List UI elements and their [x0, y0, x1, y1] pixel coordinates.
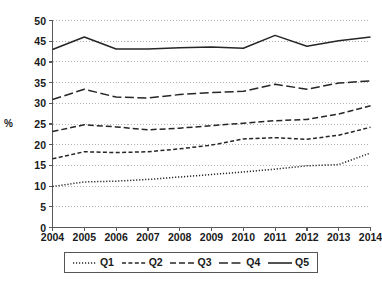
legend-label: Q1 [100, 257, 114, 268]
x-axis-tick-label: 2007 [136, 231, 159, 243]
series-line-q1 [53, 153, 371, 187]
legend-label: Q5 [295, 257, 309, 268]
series-line-q2 [53, 127, 371, 158]
x-axis-tick-label: 2006 [104, 231, 127, 243]
x-axis-tick-label: 2011 [264, 231, 287, 243]
legend-swatch-q5 [268, 259, 292, 267]
x-axis-tick-label: 2014 [359, 231, 382, 243]
legend-item-q2[interactable]: Q2 [122, 257, 163, 268]
chart-container: % 50454035302520151050 Q1Q2Q3Q4Q5 200420… [0, 0, 382, 283]
gridlines [53, 21, 371, 207]
legend-label: Q4 [246, 257, 260, 268]
x-axis-tick-label: 2005 [73, 231, 96, 243]
series-line-q4 [53, 81, 371, 100]
x-axis-tick-label: 2013 [327, 231, 350, 243]
x-axis-tick-label: 2009 [200, 231, 223, 243]
x-axis-tick-label: 2008 [168, 231, 191, 243]
legend-item-q3[interactable]: Q3 [170, 257, 211, 268]
x-axis-tick-label: 2004 [41, 231, 64, 243]
legend-swatch-q3 [170, 259, 194, 267]
legend-label: Q2 [149, 257, 163, 268]
legend-item-q5[interactable]: Q5 [268, 257, 309, 268]
series-line-q5 [53, 35, 371, 49]
legend-swatch-q2 [122, 259, 146, 267]
legend-label: Q3 [197, 257, 211, 268]
legend-item-q4[interactable]: Q4 [219, 257, 260, 268]
chart-legend: Q1Q2Q3Q4Q5 [64, 252, 318, 273]
series-line-q3 [53, 106, 371, 132]
legend-swatch-q1 [73, 259, 97, 267]
data-series-group [53, 35, 371, 186]
x-axis-tick-label: 2010 [232, 231, 255, 243]
legend-item-q1[interactable]: Q1 [73, 257, 114, 268]
legend-swatch-q4 [219, 259, 243, 267]
x-axis-tick-label: 2012 [295, 231, 318, 243]
